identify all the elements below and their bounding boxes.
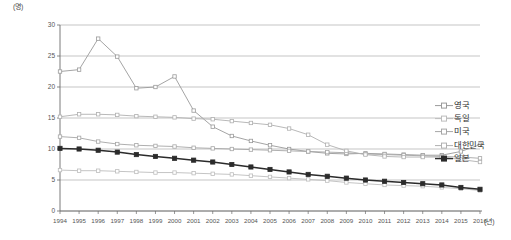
x-tick-label: 2001 — [187, 217, 201, 224]
data-point — [192, 146, 195, 149]
data-point — [478, 187, 482, 191]
data-point — [135, 114, 138, 117]
x-tick-label: 2014 — [435, 217, 449, 224]
x-tick-label: 2006 — [282, 217, 296, 224]
data-point — [192, 109, 195, 112]
data-point — [77, 113, 80, 116]
y-axis-unit-label: (명) — [13, 1, 23, 11]
x-tick-label: 2011 — [378, 217, 392, 224]
data-point — [211, 147, 214, 150]
data-point — [173, 171, 176, 174]
data-point — [230, 173, 233, 176]
data-point — [154, 115, 157, 118]
legend-label: 영국 — [454, 99, 469, 112]
data-point — [363, 178, 367, 182]
data-point — [249, 148, 252, 151]
data-point — [268, 175, 271, 178]
data-point — [345, 181, 348, 184]
data-point — [211, 125, 214, 128]
legend-marker-icon — [434, 99, 454, 112]
data-point — [249, 174, 252, 177]
data-point — [326, 143, 329, 146]
data-point — [77, 136, 80, 139]
legend-item[interactable]: 영국 — [434, 99, 485, 112]
data-point — [172, 156, 176, 160]
data-point — [345, 149, 348, 152]
x-axis-unit-label: (년) — [484, 216, 495, 226]
legend-item[interactable]: 일본 — [434, 152, 485, 165]
data-point — [77, 169, 80, 172]
data-point — [135, 170, 138, 173]
data-point — [96, 37, 99, 40]
data-point — [249, 165, 253, 169]
data-point — [154, 171, 157, 174]
data-point — [421, 155, 424, 158]
chart-container: (명) (년) 051015202530 1994199519961997199… — [0, 0, 511, 240]
data-point — [230, 147, 233, 150]
x-tick-label: 1996 — [91, 217, 105, 224]
data-series-group — [58, 37, 482, 192]
y-tick-label: 5 — [51, 176, 55, 183]
data-point — [58, 115, 61, 118]
data-point — [306, 172, 310, 176]
x-tick-label: 2002 — [206, 217, 220, 224]
data-point — [287, 176, 290, 179]
legend-item[interactable]: 미국 — [434, 125, 485, 138]
data-point — [58, 135, 61, 138]
x-tick-label: 2007 — [301, 217, 315, 224]
data-point — [173, 75, 176, 78]
legend-marker-icon — [434, 139, 454, 152]
data-point — [154, 144, 157, 147]
x-tick-label: 2009 — [339, 217, 353, 224]
data-point — [230, 119, 233, 122]
x-tick-label: 2010 — [359, 217, 373, 224]
x-tick-label: 2013 — [416, 217, 430, 224]
data-point — [326, 179, 329, 182]
x-tick-label: 1994 — [53, 217, 67, 224]
data-point — [287, 127, 290, 130]
x-tick-label: 1997 — [110, 217, 124, 224]
data-point — [249, 139, 252, 142]
data-point — [135, 87, 138, 90]
data-point — [230, 134, 233, 137]
data-point — [344, 176, 348, 180]
data-point — [364, 182, 367, 185]
x-tick-label: 1998 — [129, 217, 143, 224]
x-axis-ticks: 1994199519961997199819992000200120022003… — [53, 211, 487, 224]
data-point — [459, 185, 463, 189]
data-point — [192, 171, 195, 174]
y-tick-label: 20 — [48, 83, 56, 90]
series-미국 — [58, 135, 481, 160]
data-point — [421, 182, 425, 186]
data-point — [306, 133, 309, 136]
legend-label: 일본 — [454, 152, 469, 165]
legend-marker-icon — [434, 152, 454, 165]
data-point — [402, 155, 405, 158]
data-point — [249, 121, 252, 124]
legend-marker-icon — [434, 112, 454, 125]
legend-item[interactable]: 독일 — [434, 112, 485, 125]
data-point — [116, 55, 119, 58]
data-point — [383, 183, 386, 186]
data-point — [382, 179, 386, 183]
data-point — [268, 144, 271, 147]
data-point — [326, 150, 329, 153]
data-point — [134, 152, 138, 156]
data-point — [287, 170, 291, 174]
y-axis-ticks: 051015202530 — [48, 21, 56, 214]
legend-label: 미국 — [454, 125, 469, 138]
y-tick-label: 30 — [48, 21, 56, 28]
data-point — [58, 70, 61, 73]
x-tick-label: 2008 — [320, 217, 334, 224]
x-tick-label: 2000 — [168, 217, 182, 224]
legend-item[interactable]: 대한민국 — [434, 139, 485, 152]
legend-label: 독일 — [454, 112, 469, 125]
data-point — [115, 150, 119, 154]
data-point — [306, 150, 309, 153]
legend-marker-icon — [434, 125, 454, 138]
data-point — [383, 155, 386, 158]
data-point — [173, 116, 176, 119]
data-point — [116, 142, 119, 145]
data-point — [96, 169, 99, 172]
data-point — [230, 162, 234, 166]
